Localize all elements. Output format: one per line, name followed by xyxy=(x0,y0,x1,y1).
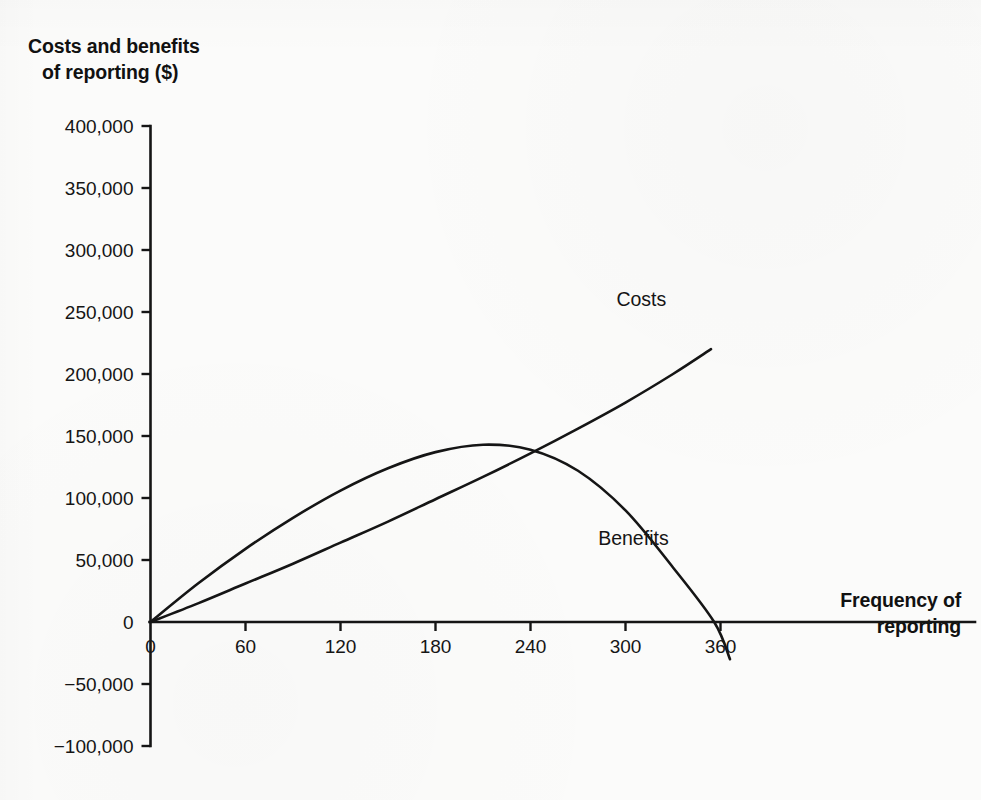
y-axis-tick-group: −100,000−50,000050,000100,000150,000200,… xyxy=(54,116,151,757)
y-axis-tick-label: 400,000 xyxy=(65,116,134,137)
x-axis-tick-label: 240 xyxy=(515,636,547,657)
y-axis-tick-label: 300,000 xyxy=(65,240,134,261)
chart-plot-area: −100,000−50,000050,000100,000150,000200,… xyxy=(0,0,981,800)
series-label-benefits: Benefits xyxy=(598,527,669,549)
x-axis-tick-label: 60 xyxy=(235,636,256,657)
y-axis-tick-label: 200,000 xyxy=(65,364,134,385)
y-axis-tick-label: −50,000 xyxy=(64,674,133,695)
benefits-curve xyxy=(151,445,731,660)
y-axis-tick-label: 50,000 xyxy=(75,550,133,571)
x-axis-tick-label: 120 xyxy=(325,636,357,657)
curve-label-group: CostsBenefits xyxy=(598,288,669,549)
y-axis-tick-label: 350,000 xyxy=(65,178,134,199)
x-axis-tick-group: 060120180240300360 xyxy=(145,622,736,657)
chart-page: Costs and benefits of reporting ($) Freq… xyxy=(0,0,981,800)
x-axis-tick-label: 300 xyxy=(610,636,642,657)
series-label-costs: Costs xyxy=(616,288,666,310)
y-axis-tick-label: 0 xyxy=(123,612,134,633)
y-axis-tick-label: 100,000 xyxy=(65,488,134,509)
x-axis-tick-label: 180 xyxy=(420,636,452,657)
y-axis-tick-label: 250,000 xyxy=(65,302,134,323)
costs-curve xyxy=(151,349,712,622)
x-axis-tick-label: 360 xyxy=(705,636,737,657)
y-axis-tick-label: 150,000 xyxy=(65,426,134,447)
y-axis-tick-label: −100,000 xyxy=(54,736,134,757)
